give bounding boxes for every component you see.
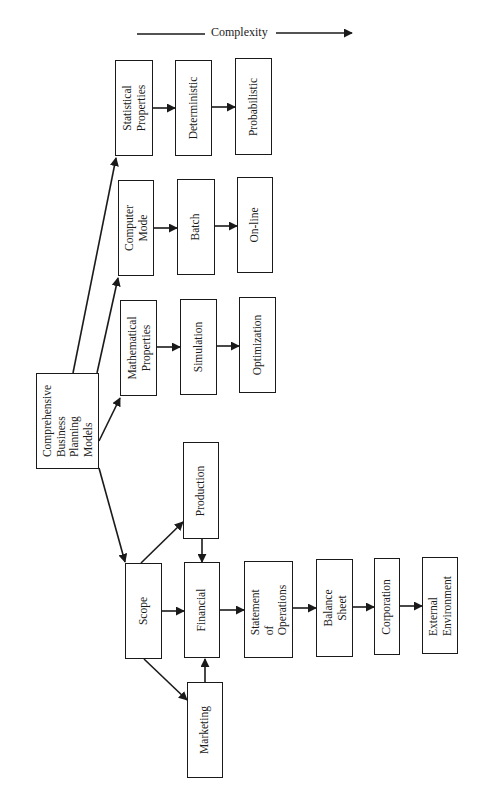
node-computer-mode: Computer Mode bbox=[118, 180, 154, 276]
node-statement-of-operations: Statement of Operations bbox=[244, 561, 293, 658]
edge-root-statistical bbox=[73, 158, 116, 373]
node-external-environment: External Environment bbox=[422, 557, 458, 654]
node-statistical-properties: Statistical Properties bbox=[115, 60, 153, 156]
edge-root-mathematical bbox=[99, 398, 120, 441]
node-mathematical-properties: Mathematical Properties bbox=[120, 300, 157, 396]
node-scope: Scope bbox=[125, 563, 162, 659]
node-marketing: Marketing bbox=[187, 682, 223, 778]
node-production: Production bbox=[183, 442, 219, 539]
node-batch: Batch bbox=[177, 179, 215, 275]
node-root: Comprehensive Business Planning Models bbox=[36, 373, 99, 469]
node-balance-label: Balance Sheet bbox=[321, 589, 348, 626]
business-planning-models-diagram: Complexity Comprehensive Business Planni… bbox=[0, 0, 484, 806]
node-probabilistic-label: Probabilistic bbox=[247, 77, 261, 135]
node-root-label: Comprehensive Business Planning Models bbox=[41, 385, 95, 457]
edge-root-scope bbox=[99, 468, 125, 562]
node-balance-sheet: Balance Sheet bbox=[316, 559, 353, 657]
node-simulation-label: Simulation bbox=[192, 322, 206, 372]
node-production-label: Production bbox=[194, 465, 208, 515]
node-probabilistic: Probabilistic bbox=[235, 58, 272, 155]
node-deterministic-label: Deterministic bbox=[187, 77, 201, 140]
node-corporation-label: Corporation bbox=[380, 579, 394, 635]
node-corporation: Corporation bbox=[374, 558, 400, 655]
node-external-label: External Environment bbox=[427, 575, 454, 635]
node-mathematical-label: Mathematical Properties bbox=[125, 316, 152, 379]
node-financial: Financial bbox=[184, 562, 220, 658]
node-simulation: Simulation bbox=[180, 299, 217, 395]
node-statement-label: Statement of Operations bbox=[248, 584, 289, 634]
node-marketing-label: Marketing bbox=[198, 706, 212, 754]
node-financial-label: Financial bbox=[195, 589, 209, 632]
node-online: On-line bbox=[237, 177, 273, 273]
edge-root-computer-mode bbox=[97, 278, 118, 373]
node-computer-mode-label: Computer Mode bbox=[123, 205, 150, 251]
node-optimization: Optimization bbox=[239, 297, 276, 393]
node-deterministic: Deterministic bbox=[175, 60, 212, 156]
node-optimization-label: Optimization bbox=[251, 315, 265, 376]
node-statistical-label: Statistical Properties bbox=[121, 85, 148, 132]
edge-scope-production bbox=[141, 522, 183, 563]
node-batch-label: Batch bbox=[189, 214, 203, 241]
edge-scope-marketing bbox=[144, 659, 187, 700]
node-scope-label: Scope bbox=[137, 597, 151, 625]
node-online-label: On-line bbox=[248, 207, 262, 242]
complexity-axis-label: Complexity bbox=[209, 25, 270, 40]
